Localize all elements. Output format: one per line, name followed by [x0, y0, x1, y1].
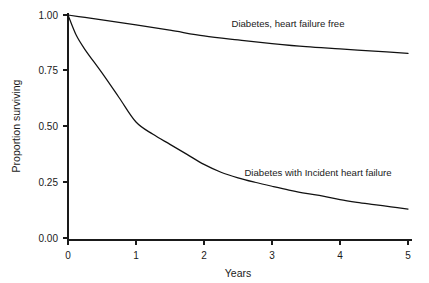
x-tick-label-3: 3 — [269, 250, 275, 261]
y-tick-label-2: 0.50 — [39, 121, 59, 132]
series-annotation-incident-heart-failure: Diabetes with Incident heart failure — [244, 167, 391, 178]
y-tick-label-4: 1.00 — [39, 10, 59, 21]
series-annotation-heart-failure-free: Diabetes, heart failure free — [231, 18, 344, 29]
x-tick-label-2: 2 — [201, 250, 207, 261]
y-tick-label-0: 0.00 — [39, 233, 59, 244]
x-axis-title: Years — [225, 267, 251, 279]
survival-chart-figure: 1.00 0.75 0.50 0.25 0.00 0 1 2 3 4 5 Yea… — [0, 0, 429, 283]
x-tick-label-0: 0 — [65, 250, 71, 261]
x-tick-label-1: 1 — [133, 250, 139, 261]
y-tick-label-3: 0.75 — [39, 65, 59, 76]
x-tick-label-5: 5 — [405, 250, 411, 261]
survival-plot-svg: 1.00 0.75 0.50 0.25 0.00 0 1 2 3 4 5 Yea… — [0, 0, 429, 283]
y-axis-title: Proportion surviving — [10, 79, 22, 172]
curve-diabetes-with-incident-heart-failure — [68, 15, 408, 209]
x-tick-label-4: 4 — [337, 250, 343, 261]
y-tick-label-1: 0.25 — [39, 177, 59, 188]
